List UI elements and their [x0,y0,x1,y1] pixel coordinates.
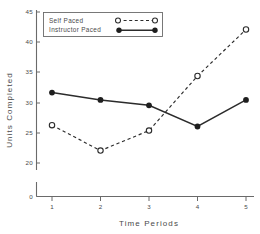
y-tick-label-25: 25 [26,129,34,136]
y-tick-label-20: 20 [26,159,34,166]
y-tick-label-35: 35 [26,68,34,75]
series-self-paced [49,27,248,154]
y-axis: 45 40 35 30 25 20 0 [26,8,40,200]
legend-label-self-paced: Self Paced [49,17,84,24]
series-instructor-paced [49,90,249,130]
y-tick-label-45: 45 [26,8,34,15]
x-tick-label-5: 5 [244,203,248,210]
chart-legend: Self Paced Instructor Paced [44,13,163,37]
x-tick-marks [52,197,246,202]
x-axis: 1 2 3 4 5 [37,197,255,211]
chart-container: 45 40 35 30 25 20 0 1 2 3 4 5 Time [0,0,260,234]
data-point [195,73,200,78]
line-chart: 45 40 35 30 25 20 0 1 2 3 4 5 Time [0,0,260,234]
data-point [98,148,103,153]
legend-label-instructor-paced: Instructor Paced [49,26,101,33]
data-point [195,124,201,130]
series-instructor-paced-markers [49,90,249,130]
x-tick-label-3: 3 [147,203,151,210]
x-axis-title: Time Periods [119,219,179,228]
data-point [243,27,248,32]
data-point [146,102,152,108]
data-point [49,123,54,128]
data-point [243,97,249,103]
x-tick-label-2: 2 [99,203,103,210]
y-tick-label-0: 0 [29,193,33,200]
x-tick-label-4: 4 [196,203,200,210]
data-point [49,90,55,96]
x-tick-label-1: 1 [50,203,54,210]
series-self-paced-markers [49,27,248,154]
data-point [98,97,104,103]
y-axis-title: Units Completed [5,72,14,148]
y-tick-label-40: 40 [26,38,34,45]
y-tick-label-30: 30 [26,99,34,106]
data-point [146,128,151,133]
